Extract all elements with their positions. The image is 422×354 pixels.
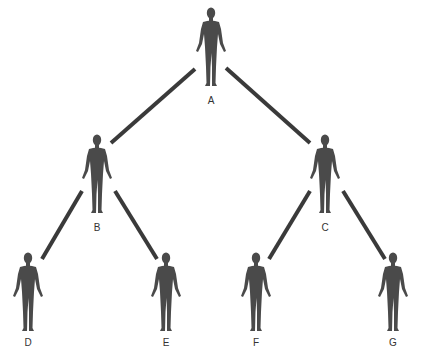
person-node-a <box>189 7 233 87</box>
node-label-c: C <box>315 222 335 233</box>
edge-a-b <box>111 69 195 143</box>
node-label-a: A <box>201 95 221 106</box>
person-icon <box>148 252 184 332</box>
person-node-b <box>75 134 119 214</box>
person-node-f <box>234 252 278 332</box>
node-label-d: D <box>18 337 38 348</box>
person-icon <box>10 252 46 332</box>
node-label-b: B <box>87 222 107 233</box>
person-node-g <box>371 252 415 332</box>
node-label-g: G <box>383 337 403 348</box>
node-label-e: E <box>156 337 176 348</box>
edge-c-g <box>343 191 385 259</box>
person-icon <box>375 252 411 332</box>
person-icon <box>307 134 343 214</box>
node-label-f: F <box>246 337 266 348</box>
person-node-d <box>6 252 50 332</box>
family-tree-diagram: A B C D E F G <box>0 0 422 354</box>
person-node-e <box>144 252 188 332</box>
edge-b-e <box>115 191 157 259</box>
edge-a-c <box>226 68 310 143</box>
person-icon <box>193 7 229 87</box>
person-icon <box>238 252 274 332</box>
person-node-c <box>303 134 347 214</box>
person-icon <box>79 134 115 214</box>
